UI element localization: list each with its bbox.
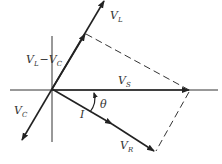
- vs-label: VS: [118, 74, 131, 89]
- dashed-line-right: [156, 92, 189, 151]
- dashed-line-top: [86, 34, 189, 90]
- vl-minus-vc-label: VL−VC: [26, 53, 63, 68]
- phasor-diagram: VL VL−VC VS VC VR I θ: [0, 0, 222, 164]
- vr-label: VR: [120, 139, 134, 154]
- i-label: I: [79, 108, 85, 121]
- vl-label: VL: [110, 9, 123, 24]
- theta-arc: [90, 93, 95, 112]
- theta-label: θ: [100, 98, 107, 111]
- vc-label: VC: [14, 104, 28, 119]
